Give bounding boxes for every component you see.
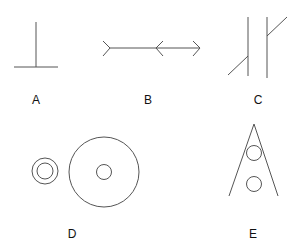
figure-a-label: A <box>32 93 40 107</box>
figure-d-small-outer-circle <box>32 158 58 184</box>
illusion-diagram: A B C D E <box>0 0 297 252</box>
figure-c-label: C <box>254 93 263 107</box>
figure-d: D <box>32 137 139 241</box>
figure-b-label: B <box>144 93 152 107</box>
figure-d-large-inner-circle <box>97 165 112 180</box>
figure-d-small-inner-circle <box>37 163 53 179</box>
figure-e-label: E <box>249 227 257 241</box>
figure-b-left-fin <box>103 41 110 56</box>
figure-a: A <box>14 22 58 107</box>
figure-e-lower-circle <box>247 177 262 192</box>
figure-e: E <box>229 124 278 241</box>
figure-c-left-diagonal <box>228 56 248 75</box>
figure-c: C <box>228 17 287 107</box>
figure-c-right-diagonal <box>267 17 287 36</box>
figure-e-upper-circle <box>247 146 262 161</box>
figure-d-large-outer-circle <box>69 137 139 207</box>
figure-b: B <box>103 41 200 107</box>
figure-d-label: D <box>68 227 77 241</box>
